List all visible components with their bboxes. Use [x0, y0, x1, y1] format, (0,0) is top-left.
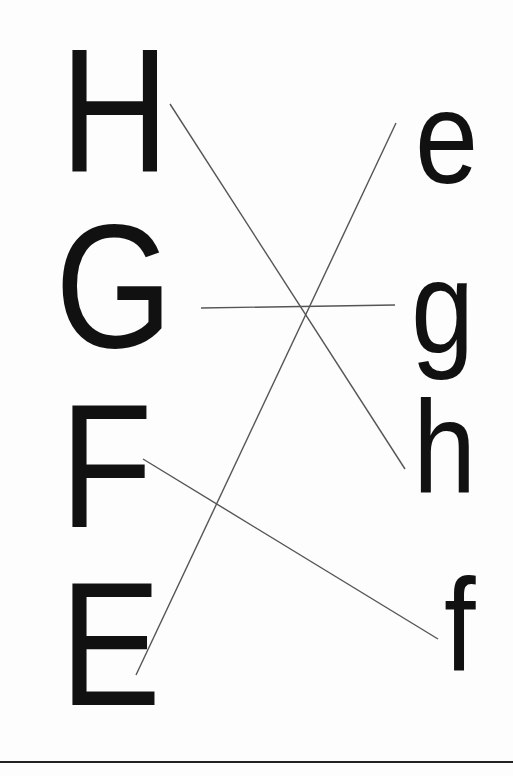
bottom-rule-divider — [0, 761, 513, 763]
connector-h-to-h — [170, 104, 405, 469]
connection-lines — [0, 0, 513, 776]
connector-e-to-e — [136, 123, 396, 675]
connector-f-to-f — [143, 459, 438, 639]
connector-g-to-g — [201, 305, 395, 308]
matching-worksheet: H G F E e g h f — [0, 0, 513, 776]
